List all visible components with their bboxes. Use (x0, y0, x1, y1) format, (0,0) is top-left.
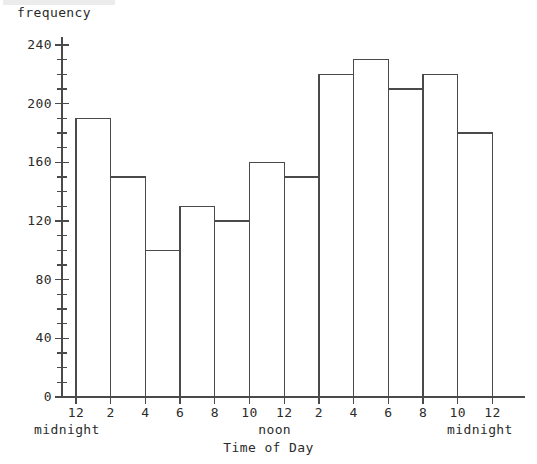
histogram-bar (284, 177, 319, 397)
y-axis-tick-label: 80 (8, 272, 52, 287)
histogram-chart: frequency 040801201602002401224681012246… (0, 0, 537, 464)
y-axis-tick-label: 200 (8, 96, 52, 111)
histogram-bar (76, 118, 111, 397)
x-axis-title: Time of Day (0, 440, 537, 455)
histogram-bar (215, 221, 250, 397)
y-axis-tick-label: 240 (8, 37, 52, 52)
x-axis-middle-annotation: noon (258, 422, 291, 437)
histogram-bar (354, 60, 389, 397)
y-axis-tick-label: 0 (8, 389, 52, 404)
histogram-bar (250, 162, 285, 397)
histogram-bar (458, 133, 493, 397)
histogram-bar (111, 177, 146, 397)
histogram-bar (319, 74, 354, 397)
x-axis-start-annotation: midnight (34, 422, 100, 437)
histogram-bar (145, 250, 180, 397)
y-axis-tick-label: 40 (8, 330, 52, 345)
x-axis-end-annotation: midnight (447, 422, 513, 437)
x-axis-tick-label: 12 (472, 405, 512, 420)
histogram-bar (423, 74, 458, 397)
histogram-bar (180, 206, 215, 397)
histogram-bar (388, 89, 423, 397)
y-axis-tick-label: 120 (8, 213, 52, 228)
plot-area (0, 0, 537, 464)
y-axis-tick-label: 160 (8, 154, 52, 169)
